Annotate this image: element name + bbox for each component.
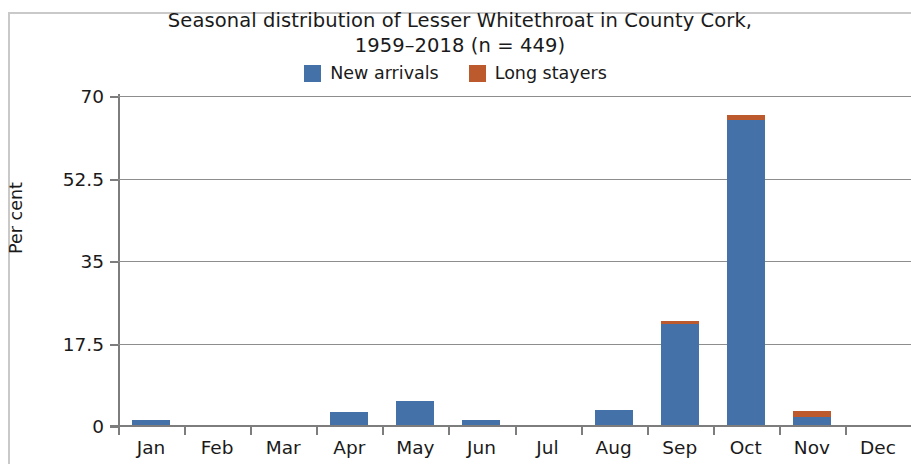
bar-group	[595, 410, 633, 426]
bar-group	[727, 115, 765, 426]
chart-title-line-1: Seasonal distribution of Lesser Whitethr…	[30, 8, 890, 33]
bar-group	[330, 412, 368, 426]
bar-segment	[595, 410, 633, 426]
x-axis-tick-label: Dec	[860, 437, 896, 458]
x-axis-tick-label: Jul	[536, 437, 558, 458]
x-axis-tick-label: Sep	[662, 437, 697, 458]
bar-group	[396, 401, 434, 426]
legend-swatch-icon	[304, 65, 321, 82]
legend-item: New arrivals	[304, 64, 438, 82]
gridline	[118, 179, 911, 180]
y-axis-tick-label: 0	[92, 416, 104, 437]
x-axis-tick-label: Nov	[794, 437, 830, 458]
x-axis-tick-label: Mar	[266, 437, 301, 458]
x-axis-tick-mark	[845, 426, 847, 435]
x-axis-tick-label: Apr	[333, 437, 365, 458]
y-axis-labels: 017.53552.570	[0, 96, 104, 426]
x-axis-tick-label: Aug	[596, 437, 632, 458]
y-axis-title: Per cent	[6, 182, 26, 254]
bar-group	[793, 411, 831, 426]
chart-title-line-2: 1959–2018 (n = 449)	[30, 33, 890, 58]
bar-segment	[330, 412, 368, 426]
x-axis-labels: JanFebMarAprMayJunJulAugSepOctNovDec	[118, 437, 911, 464]
gridline	[118, 344, 911, 345]
x-axis-tick-mark	[316, 426, 318, 435]
x-axis-tick-label: Jun	[467, 437, 496, 458]
x-axis-tick-mark	[515, 426, 517, 435]
x-axis-tick-mark	[647, 426, 649, 435]
x-axis-tick-label: Jan	[137, 437, 166, 458]
x-axis-tick-mark	[581, 426, 583, 435]
gridline	[118, 96, 911, 97]
plot-area	[118, 96, 911, 426]
x-axis-tick-mark	[779, 426, 781, 435]
y-axis-tick-label: 52.5	[63, 168, 104, 189]
x-axis-tick-mark	[713, 426, 715, 435]
bar-segment	[727, 120, 765, 426]
x-axis-tick-mark	[448, 426, 450, 435]
x-axis-tick-mark	[118, 426, 120, 435]
y-axis-tick-label: 17.5	[63, 333, 104, 354]
x-axis-tick-mark	[250, 426, 252, 435]
bar-segment	[661, 324, 699, 426]
legend-item: Long stayers	[469, 64, 607, 82]
x-axis-tick-label: Feb	[201, 437, 234, 458]
legend-label: Long stayers	[495, 64, 607, 82]
bar-group	[661, 321, 699, 426]
chart-legend: New arrivalsLong stayers	[0, 64, 911, 82]
x-axis-tick-mark	[184, 426, 186, 435]
legend-label: New arrivals	[330, 64, 438, 82]
gridline	[118, 261, 911, 262]
chart-title: Seasonal distribution of Lesser Whitethr…	[30, 8, 890, 58]
y-axis-tick-label: 35	[80, 251, 104, 272]
chart-container: Seasonal distribution of Lesser Whitethr…	[0, 0, 911, 464]
bar-segment	[396, 401, 434, 426]
y-axis-tick-label: 70	[80, 86, 104, 107]
x-axis-tick-label: Oct	[730, 437, 762, 458]
x-axis-tick-label: May	[396, 437, 434, 458]
legend-swatch-icon	[469, 65, 486, 82]
x-axis-tick-mark	[382, 426, 384, 435]
